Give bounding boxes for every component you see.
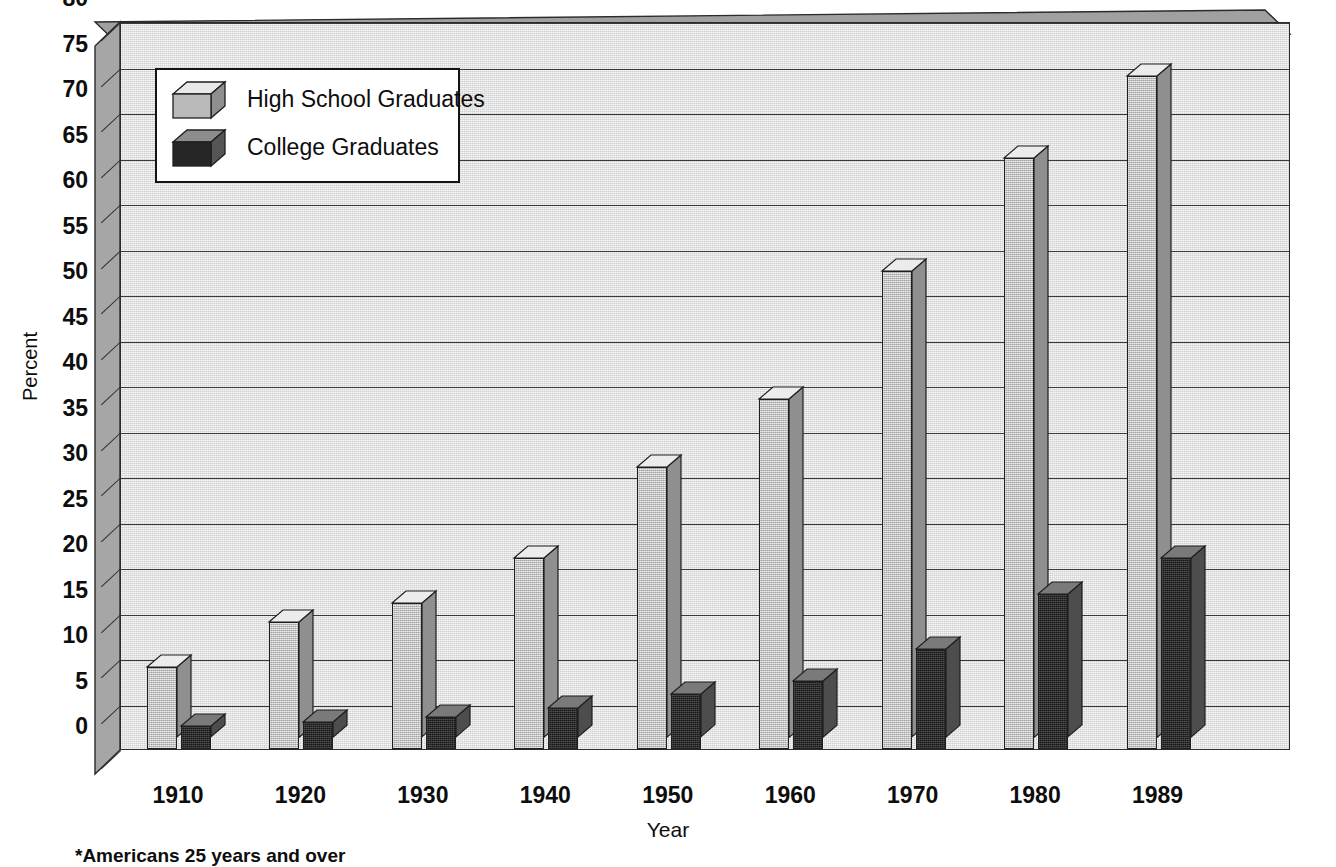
- bar-1930-high-school: [392, 603, 422, 749]
- legend-swatch-light-cube-icon: [171, 80, 233, 120]
- bar-front-face: [303, 722, 333, 749]
- y-axis-wall-tick: [101, 523, 121, 542]
- y-axis-wall-tick: [101, 386, 121, 405]
- bar-1960-high-school: [759, 399, 789, 749]
- bar-side-face: [823, 669, 837, 749]
- y-axis-wall-tick: [101, 432, 121, 451]
- bar-1989-college: [1161, 558, 1191, 749]
- y-axis-wall-tick: [101, 295, 121, 314]
- gridline: [121, 569, 1289, 570]
- legend-label-college: College Graduates: [247, 134, 439, 161]
- legend-label-high-school: High School Graduates: [247, 86, 485, 113]
- gridline: [121, 524, 1289, 525]
- y-axis-tick-label: 65: [18, 124, 88, 147]
- y-axis-tick-labels: 05101520253035404550556065707580: [0, 0, 88, 862]
- y-axis-title: Percent: [19, 307, 42, 427]
- bar-1920-high-school: [269, 622, 299, 749]
- bar-front-face: [426, 717, 456, 749]
- y-axis-tick-label: 55: [18, 215, 88, 238]
- bar-1920-college: [303, 722, 333, 749]
- bar-1970-high-school: [882, 271, 912, 749]
- bar-front-face: [147, 667, 177, 749]
- bar-front-face: [637, 467, 667, 749]
- y-axis-wall-tick: [101, 68, 121, 87]
- x-axis-title: Year: [0, 818, 1336, 842]
- gridline: [121, 296, 1289, 297]
- y-axis-wall-tick: [101, 659, 121, 678]
- legend-swatch-dark-cube-icon: [171, 128, 233, 168]
- bar-front-face: [181, 726, 211, 749]
- gridline: [121, 433, 1289, 434]
- y-axis-wall-tick: [101, 341, 121, 360]
- gridline: [121, 478, 1289, 479]
- bar-1940-college: [548, 708, 578, 749]
- bar-side-face: [211, 714, 225, 749]
- gridline: [121, 251, 1289, 252]
- bar-1989-high-school: [1127, 76, 1157, 749]
- gridline: [121, 23, 1289, 24]
- bar-front-face: [671, 694, 701, 749]
- bar-1930-college: [426, 717, 456, 749]
- bar-side-face: [1191, 546, 1205, 749]
- bar-front-face: [392, 603, 422, 749]
- y-axis-wall-tick: [101, 705, 121, 724]
- gridline: [121, 205, 1289, 206]
- bar-1980-college: [1038, 594, 1068, 749]
- bar-1910-high-school: [147, 667, 177, 749]
- bar-1910-college: [181, 726, 211, 749]
- y-axis-wall-tick: [101, 250, 121, 269]
- gridline: [121, 342, 1289, 343]
- chart-legend: High School Graduates College Graduates: [155, 68, 460, 183]
- y-axis-tick-label: 30: [18, 442, 88, 465]
- y-axis-wall-tick: [101, 614, 121, 633]
- bar-front-face: [793, 681, 823, 749]
- bar-1950-high-school: [637, 467, 667, 749]
- chart-footnote: *Americans 25 years and over: [75, 845, 345, 867]
- gridline: [121, 387, 1289, 388]
- bar-1960-college: [793, 681, 823, 749]
- bar-front-face: [514, 558, 544, 749]
- bar-1950-college: [671, 694, 701, 749]
- y-axis-tick-label: 20: [18, 533, 88, 556]
- bar-front-face: [548, 708, 578, 749]
- y-axis-wall-tick: [101, 750, 121, 769]
- y-axis-tick-label: 0: [18, 715, 88, 738]
- y-axis-tick-label: 15: [18, 579, 88, 602]
- bar-front-face: [269, 622, 299, 749]
- bar-front-face: [759, 399, 789, 749]
- bar-front-face: [916, 649, 946, 749]
- bar-1970-college: [916, 649, 946, 749]
- bar-front-face: [1004, 158, 1034, 750]
- y-axis-wall-tick: [101, 568, 121, 587]
- y-axis-tick-label: 75: [18, 33, 88, 56]
- y-axis-tick-label: 50: [18, 260, 88, 283]
- gridline: [121, 615, 1289, 616]
- x-axis-tick-label: 1989: [1078, 782, 1238, 809]
- y-axis-tick-label: 80: [18, 0, 88, 10]
- bar-side-face: [456, 705, 470, 749]
- bar-1940-high-school: [514, 558, 544, 749]
- y-axis-wall-tick: [101, 113, 121, 132]
- bar-front-face: [1038, 594, 1068, 749]
- y-axis-tick-label: 70: [18, 78, 88, 101]
- bar-side-face: [701, 682, 715, 749]
- bar-front-face: [882, 271, 912, 749]
- y-axis-tick-label: 25: [18, 488, 88, 511]
- y-axis-wall-tick: [101, 477, 121, 496]
- bar-side-face: [1068, 582, 1082, 749]
- bar-side-face: [333, 710, 347, 749]
- y-axis-tick-label: 5: [18, 670, 88, 693]
- bar-front-face: [1161, 558, 1191, 749]
- bar-1980-high-school: [1004, 158, 1034, 750]
- bar-front-face: [1127, 76, 1157, 749]
- y-axis-tick-label: 10: [18, 624, 88, 647]
- bar-side-face: [946, 637, 960, 749]
- y-axis-tick-label: 60: [18, 169, 88, 192]
- y-axis-wall-tick: [101, 159, 121, 178]
- y-axis-wall-tick: [101, 204, 121, 223]
- bar-side-face: [578, 696, 592, 749]
